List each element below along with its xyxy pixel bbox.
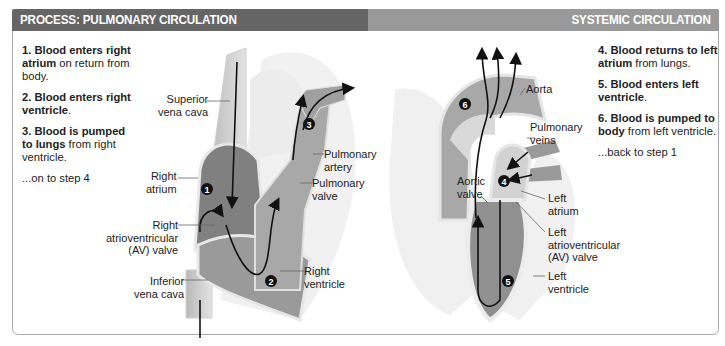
label-left-av-valve: Leftatrioventricular(AV) valve [548,226,620,264]
step-marker-6: 6 [459,98,471,110]
label-inferior-vena-cava: Inferiorvena cava [134,275,184,300]
label-left-ventricle: Leftventricle [548,270,589,295]
step-marker-5: 5 [502,275,514,287]
step-marker-4: 4 [498,175,510,187]
label-pulmonary-artery: Pulmonaryartery [324,148,377,173]
svg-text:5: 5 [505,277,510,287]
svg-text:3: 3 [306,120,311,130]
svg-text:6: 6 [462,100,467,110]
step-marker-1: 1 [201,183,213,195]
label-right-ventricle: Rightventricle [304,265,345,290]
label-superior-vena-cava: Superiorvena cava [158,93,208,118]
heart-illustration: 1 2 3 4 5 [0,0,725,346]
label-right-av-valve: Rightatrioventricular(AV) valve [106,219,178,257]
label-pulmonary-veins: Pulmonaryveins [530,121,583,146]
svg-text:4: 4 [501,177,506,187]
label-aortic-valve: Aorticvalve [457,175,485,200]
svg-text:2: 2 [268,277,273,287]
label-aorta: Aorta [526,83,552,96]
step-marker-3: 3 [303,118,315,130]
label-right-atrium: Rightatrium [146,170,177,195]
label-left-atrium: Leftatrium [548,192,579,217]
svg-text:1: 1 [204,185,209,195]
label-pulmonary-valve: Pulmonaryvalve [312,177,365,202]
step-marker-2: 2 [265,275,277,287]
